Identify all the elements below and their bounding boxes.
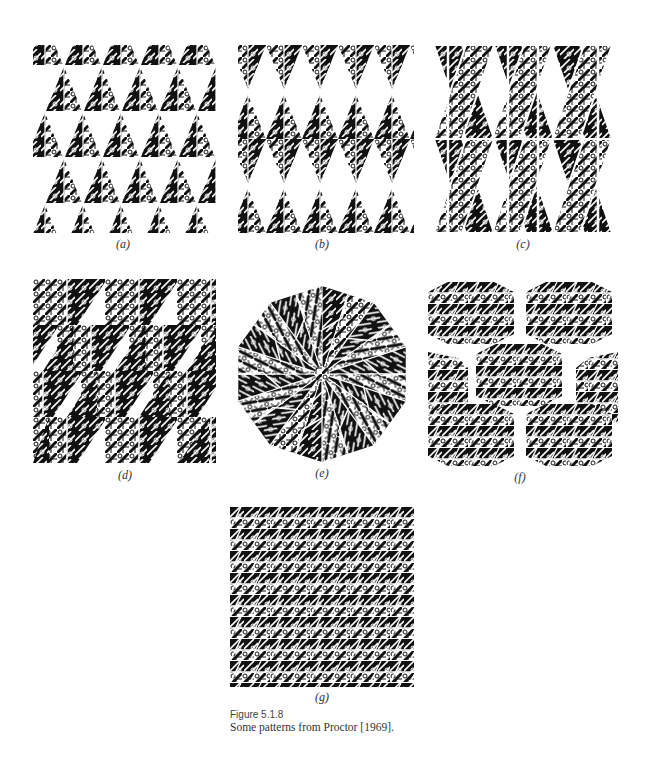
pattern-g-image xyxy=(230,507,414,687)
panel-a xyxy=(33,45,216,233)
pattern-b-image xyxy=(238,45,414,233)
pattern-a-image xyxy=(33,45,216,233)
figure-caption: Figure 5.1.8 Some patterns from Proctor … xyxy=(230,708,394,734)
pattern-d-image xyxy=(33,275,216,465)
panel-label-e: (e) xyxy=(315,466,328,481)
panel-c xyxy=(434,45,612,233)
panel-label-f: (f) xyxy=(514,470,525,485)
panel-label-a: (a) xyxy=(116,237,130,252)
panel-label-c: (c) xyxy=(516,237,529,252)
panel-label-g: (g) xyxy=(315,690,329,705)
figure-caption-text: Some patterns from Proctor [1969]. xyxy=(230,721,394,734)
pattern-f-image xyxy=(428,282,618,466)
panel-d xyxy=(33,275,216,465)
pattern-c-image xyxy=(434,45,612,233)
pattern-e-image xyxy=(234,285,410,463)
panel-g xyxy=(230,507,414,687)
panel-f xyxy=(428,282,618,466)
panel-e xyxy=(234,285,410,463)
panel-label-b: (b) xyxy=(315,237,329,252)
panel-label-d: (d) xyxy=(118,468,132,483)
panel-b xyxy=(238,45,414,233)
figure-number: Figure 5.1.8 xyxy=(230,708,394,721)
